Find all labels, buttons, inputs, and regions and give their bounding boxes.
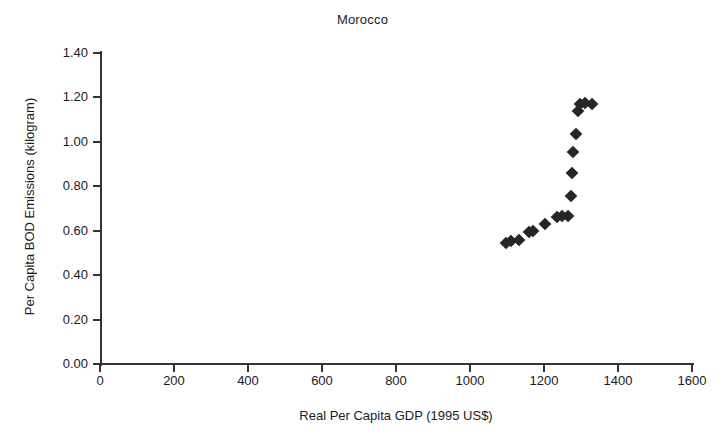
data-point-marker [566,145,579,158]
y-axis-title: Per Capita BOD Emissions (kilogram) [22,47,37,367]
x-axis-tick [173,364,175,372]
x-axis-tick [321,364,323,372]
x-axis-tick [247,364,249,372]
x-axis-title: Real Per Capita GDP (1995 US$) [100,408,692,423]
x-axis-tick [99,364,101,372]
page-title: Morocco [0,12,725,27]
y-axis-tick-label-wrap: 0.00 [36,357,88,371]
y-axis-tick-label: 0.80 [44,179,88,192]
plot-area [100,53,692,364]
data-point-marker [564,190,577,203]
chart-figure: Morocco Per Capita BOD Emissions (kilogr… [0,0,725,438]
data-point-marker [539,218,552,231]
x-axis-tick-label: 800 [366,374,426,387]
y-axis-tick-label-wrap: 1.00 [36,135,88,149]
y-axis-tick-label-wrap: 0.80 [36,179,88,193]
x-axis-tick-label: 400 [218,374,278,387]
x-axis-tick-label: 0 [70,374,130,387]
x-axis-tick-label: 200 [144,374,204,387]
y-axis-tick-label-wrap: 1.20 [36,90,88,104]
y-axis-tick-label-wrap: 0.40 [36,268,88,282]
x-axis-tick [469,364,471,372]
y-axis-tick-label-wrap: 0.60 [36,224,88,238]
y-axis-tick-label: 0.40 [44,268,88,281]
y-axis-tick-label: 1.00 [44,135,88,148]
x-axis-tick [617,364,619,372]
y-axis-tick-label-wrap: 1.40 [36,46,88,60]
y-axis-tick-label: 0.20 [44,313,88,326]
data-point-marker [569,128,582,141]
data-point-marker [566,167,579,180]
y-axis-tick-label: 1.40 [44,46,88,59]
y-axis-tick-label: 0.60 [44,224,88,237]
x-axis-tick-label: 600 [292,374,352,387]
x-axis-tick [395,364,397,372]
y-axis-tick-label: 0.00 [44,357,88,370]
y-axis-tick-label: 1.20 [44,90,88,103]
x-axis-tick-label: 1600 [662,374,722,387]
x-axis-tick [543,364,545,372]
x-axis-tick-label: 1200 [514,374,574,387]
x-axis-tick-label: 1400 [588,374,648,387]
y-axis-tick-label-wrap: 0.20 [36,313,88,327]
x-axis-tick-label: 1000 [440,374,500,387]
data-point-marker [513,234,526,247]
x-axis-tick [691,364,693,372]
